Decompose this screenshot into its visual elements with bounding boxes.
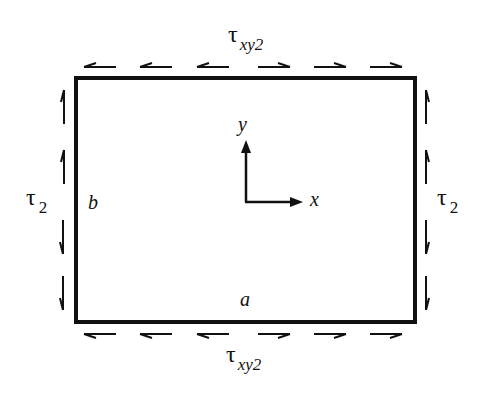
arrow-right-icon: [370, 63, 402, 67]
arrow-left-icon: [84, 63, 116, 67]
arrow-right-icon: [258, 334, 290, 338]
left-shear-arrows: [60, 90, 64, 310]
arrow-left-icon: [84, 334, 116, 338]
arrow-left-icon: [140, 334, 172, 338]
shear-plate-diagram: τxy2 τxy2 τ2 τ2 b a y x: [0, 0, 483, 396]
bottom-shear-label: τxy2: [226, 341, 262, 374]
arrow-up-icon: [61, 90, 64, 124]
arrow-left-icon: [197, 63, 229, 67]
top-shear-label: τxy2: [228, 21, 264, 54]
arrow-left-icon: [197, 334, 229, 338]
arrow-right-icon: [370, 334, 402, 338]
left-shear-label: τ2: [26, 184, 47, 217]
arrow-up-icon: [61, 150, 64, 184]
side-a-label: a: [240, 288, 250, 310]
arrow-left-icon: [140, 63, 172, 67]
right-shear-arrows: [426, 90, 429, 310]
top-shear-arrows: [84, 63, 402, 67]
arrow-down-icon: [426, 220, 429, 254]
side-b-label: b: [88, 191, 98, 213]
arrow-right-icon: [314, 63, 346, 67]
arrow-down-icon: [60, 276, 63, 310]
arrow-right-icon: [258, 63, 290, 67]
axis-y-label: y: [236, 113, 247, 136]
axis-x-label: x: [309, 188, 319, 210]
arrow-down-icon: [60, 220, 63, 254]
right-shear-label: τ2: [437, 184, 458, 217]
arrow-down-icon: [426, 276, 429, 310]
bottom-shear-arrows: [84, 334, 402, 338]
arrow-right-icon: [314, 334, 346, 338]
coordinate-axes: [241, 140, 303, 207]
arrow-up-icon: [426, 90, 429, 124]
arrow-up-icon: [426, 150, 429, 184]
